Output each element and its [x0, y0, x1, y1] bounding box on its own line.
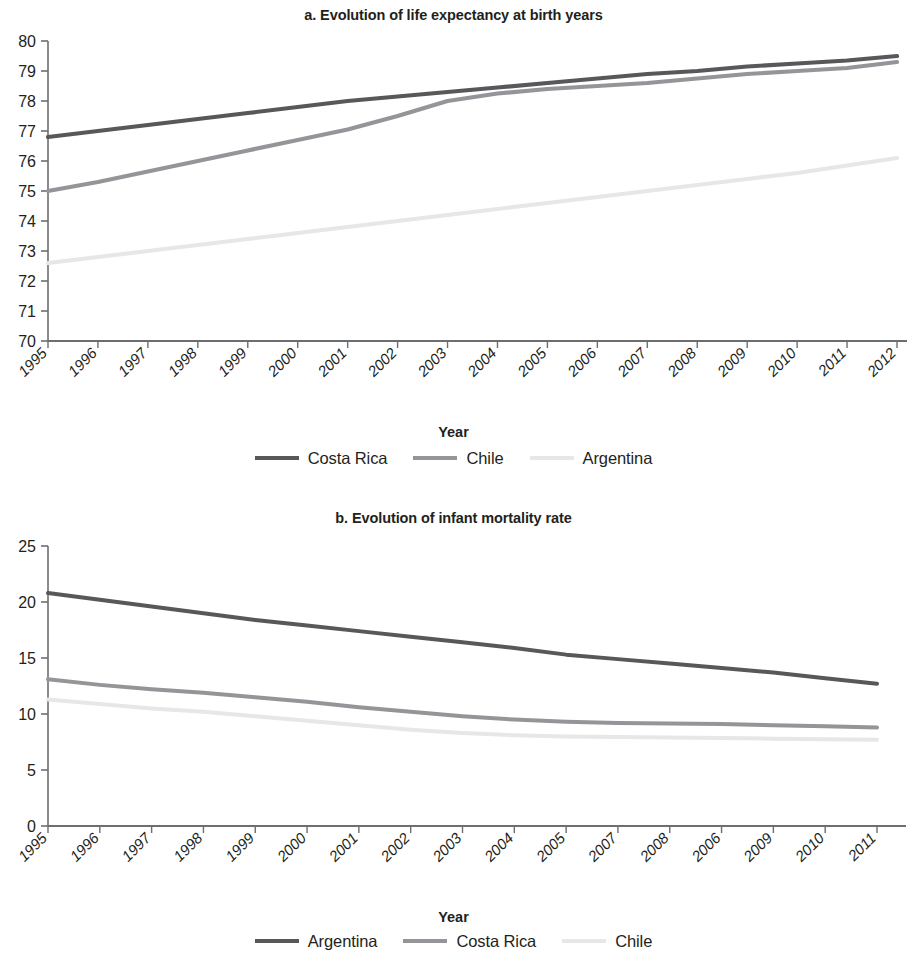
- x-axis-tick-label: 1998: [170, 828, 206, 864]
- x-axis-tick-label: 2001: [325, 829, 361, 865]
- legend-item-costa-rica[interactable]: Costa Rica: [255, 450, 388, 467]
- chart-a-plot: 7071727374757677787980199519961997199819…: [0, 33, 907, 433]
- chart-a-title: a. Evolution of life expectancy at birth…: [0, 8, 907, 23]
- y-axis-tick-label: 76: [18, 152, 36, 169]
- chart-b-legend: ArgentinaCosta RicaChile: [0, 933, 907, 950]
- chart-b-plot: 0510152025199519961997199819992000200120…: [0, 536, 907, 916]
- x-axis-tick-label: 2001: [313, 344, 349, 380]
- series-line-chile: [48, 699, 877, 739]
- x-axis-tick-label: 1997: [118, 828, 154, 864]
- x-axis-tick-label: 1996: [64, 343, 100, 379]
- y-axis-tick-label: 75: [18, 182, 36, 199]
- legend-item-chile[interactable]: Chile: [562, 933, 652, 950]
- series-line-argentina: [48, 593, 877, 684]
- y-axis-tick-label: 77: [18, 122, 36, 139]
- legend-swatch-icon: [530, 456, 574, 460]
- series-line-chile: [48, 62, 897, 191]
- x-axis-tick-label: 2002: [363, 343, 400, 380]
- legend-swatch-icon: [403, 939, 447, 943]
- x-axis-tick-label: 2006: [563, 343, 600, 380]
- y-axis-tick-label: 71: [18, 302, 36, 319]
- y-axis-tick-label: 5: [27, 761, 36, 778]
- figure-infant-mortality: b. Evolution of infant mortality rate 05…: [0, 505, 907, 950]
- x-axis-tick-label: 2005: [513, 343, 550, 380]
- chart-b-svg: 0510152025199519961997199819992000200120…: [0, 536, 907, 916]
- x-axis-tick-label: 2002: [376, 828, 413, 865]
- chart-b-title: b. Evolution of infant mortality rate: [0, 511, 907, 526]
- x-axis-tick-label: 1997: [114, 343, 150, 379]
- x-axis-tick-label: 2004: [463, 344, 499, 380]
- legend-item-chile[interactable]: Chile: [413, 450, 503, 467]
- x-axis-tick-label: 2007: [584, 828, 621, 865]
- y-axis-tick-label: 80: [18, 33, 36, 50]
- legend-swatch-icon: [562, 939, 606, 943]
- legend-swatch-icon: [255, 939, 299, 943]
- x-axis-tick-label: 2007: [613, 343, 650, 380]
- x-axis-tick-label: 1999: [214, 343, 250, 379]
- x-axis-tick-label: 2008: [663, 343, 700, 380]
- legend-label: Chile: [615, 933, 652, 950]
- x-axis-tick-label: 2005: [532, 828, 569, 865]
- x-axis-tick-label: 2011: [814, 344, 850, 380]
- x-axis-tick-label: 2003: [413, 343, 450, 380]
- y-axis-tick-label: 15: [18, 649, 36, 666]
- y-axis-tick-label: 70: [18, 332, 36, 349]
- y-axis-tick-label: 79: [18, 62, 36, 79]
- x-axis-tick-label: 1999: [222, 828, 258, 864]
- y-axis-tick-label: 72: [18, 272, 36, 289]
- x-axis-tick-label: 2003: [428, 828, 465, 865]
- series-line-costa-rica: [48, 679, 877, 727]
- legend-item-argentina[interactable]: Argentina: [530, 450, 653, 467]
- y-axis-tick-label: 73: [18, 242, 36, 259]
- legend-item-argentina[interactable]: Argentina: [255, 933, 378, 950]
- x-axis-tick-label: 2009: [739, 828, 776, 865]
- figure-life-expectancy: a. Evolution of life expectancy at birth…: [0, 0, 907, 467]
- x-axis-tick-label: 2010: [791, 828, 828, 865]
- y-axis-tick-label: 20: [18, 593, 36, 610]
- x-axis-tick-label: 1996: [66, 828, 102, 864]
- y-axis-tick-label: 74: [18, 212, 36, 229]
- x-axis-tick-label: 2008: [636, 828, 673, 865]
- legend-label: Costa Rica: [308, 450, 388, 467]
- x-axis-tick-label: 2000: [273, 828, 310, 865]
- x-axis-tick-label: 1995: [15, 828, 51, 864]
- chart-a-legend: Costa RicaChileArgentina: [0, 450, 907, 467]
- y-axis-tick-label: 25: [18, 537, 36, 554]
- x-axis-tick-label: 2011: [844, 829, 880, 865]
- legend-swatch-icon: [255, 456, 299, 460]
- legend-label: Costa Rica: [456, 933, 536, 950]
- legend-label: Chile: [466, 450, 503, 467]
- legend-swatch-icon: [413, 456, 457, 460]
- x-axis-tick-label: 2000: [263, 343, 300, 380]
- y-axis-tick-label: 10: [18, 705, 36, 722]
- legend-item-costa-rica[interactable]: Costa Rica: [403, 933, 536, 950]
- chart-a-svg: 7071727374757677787980199519961997199819…: [0, 33, 907, 433]
- x-axis-tick-label: 2009: [713, 343, 750, 380]
- legend-label: Argentina: [308, 933, 378, 950]
- x-axis-tick-label: 2010: [763, 343, 800, 380]
- y-axis-tick-label: 78: [18, 92, 36, 109]
- x-axis-tick-label: 1998: [164, 343, 200, 379]
- x-axis-tick-label: 2006: [687, 828, 724, 865]
- series-line-argentina: [48, 158, 897, 263]
- x-axis-tick-label: 2004: [480, 829, 516, 865]
- x-axis-tick-label: 2012: [863, 343, 900, 380]
- legend-label: Argentina: [583, 450, 653, 467]
